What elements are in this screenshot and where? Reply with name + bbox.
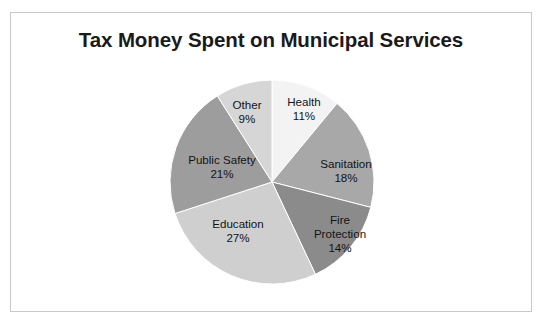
pie-slice-group [170,80,374,284]
chart-screenshot: Tax Money Spent on Municipal Services He… [0,0,543,324]
pie-chart-svg [169,79,375,285]
chart-title: Tax Money Spent on Municipal Services [11,29,531,52]
chart-frame: Tax Money Spent on Municipal Services He… [10,12,532,312]
pie-chart: Health 11% Sanitation 18% Fire Protectio… [169,79,375,285]
